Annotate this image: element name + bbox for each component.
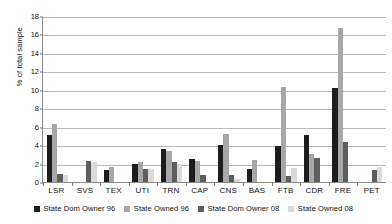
x-tick-mark bbox=[300, 182, 301, 186]
chart-legend: State Dom Owner 96State Owned 96State Do… bbox=[34, 204, 386, 213]
bar-group bbox=[43, 17, 72, 182]
y-axis-label: % of total sample bbox=[15, 12, 24, 102]
bar-group bbox=[300, 17, 329, 182]
legend-item[interactable]: State Owned 08 bbox=[288, 204, 353, 213]
x-tick-label: CNS bbox=[214, 186, 243, 195]
x-tick-mark bbox=[43, 182, 44, 186]
legend-item[interactable]: State Dom Owner 96 bbox=[34, 204, 115, 213]
x-tick-mark bbox=[357, 182, 358, 186]
x-tick-label: FRE bbox=[329, 186, 358, 195]
bar-group bbox=[100, 17, 129, 182]
legend-item[interactable]: State Owned 96 bbox=[124, 204, 189, 213]
x-tick-label: UTI bbox=[128, 186, 157, 195]
legend-swatch-icon bbox=[34, 206, 40, 212]
bar bbox=[291, 168, 296, 182]
x-tick-label: BAS bbox=[243, 186, 272, 195]
x-axis-tick-labels: LSRSVSTEXUTITRNCAPCNSBASFTBCDRFREPET bbox=[42, 186, 386, 195]
x-tick-label: FTB bbox=[271, 186, 300, 195]
x-tick-mark bbox=[214, 182, 215, 186]
bar-group bbox=[186, 17, 215, 182]
x-tick-mark bbox=[100, 182, 101, 186]
bar bbox=[91, 162, 96, 182]
bar bbox=[148, 169, 153, 182]
bar bbox=[200, 175, 205, 182]
legend-label: State Dom Owner 08 bbox=[207, 204, 279, 213]
x-tick-mark bbox=[72, 182, 73, 186]
bar-groups bbox=[43, 17, 386, 182]
legend-label: State Owned 96 bbox=[134, 204, 189, 213]
x-tick-label: PET bbox=[357, 186, 386, 195]
bar-group bbox=[357, 17, 386, 182]
x-tick-label: CAP bbox=[185, 186, 214, 195]
legend-label: State Dom Owner 96 bbox=[44, 204, 116, 213]
bar-group bbox=[329, 17, 358, 182]
y-tick-label: 12 bbox=[31, 69, 39, 77]
y-tick-label: 16 bbox=[31, 32, 39, 40]
bar-group bbox=[214, 17, 243, 182]
y-tick-label: 8 bbox=[35, 105, 39, 113]
y-tick-label: 2 bbox=[35, 161, 39, 169]
x-tick-mark bbox=[129, 182, 130, 186]
bar-group bbox=[72, 17, 101, 182]
legend-swatch-icon bbox=[124, 206, 130, 212]
bar bbox=[177, 164, 182, 182]
legend-label: State Owned 08 bbox=[298, 204, 353, 213]
x-tick-label: CDR bbox=[300, 186, 329, 195]
y-tick-label: 6 bbox=[35, 124, 39, 132]
plot-area: 024681012141618 bbox=[42, 17, 386, 183]
x-tick-label: TEX bbox=[99, 186, 128, 195]
y-tick-label: 4 bbox=[35, 142, 39, 150]
bar-group bbox=[243, 17, 272, 182]
x-tick-mark bbox=[329, 182, 330, 186]
bar-chart: % of total sample 024681012141618 LSRSVS… bbox=[0, 0, 392, 224]
bar-group bbox=[129, 17, 158, 182]
x-tick-mark bbox=[186, 182, 187, 186]
bar bbox=[314, 158, 319, 182]
bar-group bbox=[272, 17, 301, 182]
bar bbox=[109, 167, 114, 182]
x-tick-label: LSR bbox=[42, 186, 71, 195]
x-tick-label: SVS bbox=[71, 186, 100, 195]
x-tick-label: TRN bbox=[157, 186, 186, 195]
y-tick-label: 14 bbox=[31, 50, 39, 58]
bar bbox=[252, 160, 257, 182]
legend-swatch-icon bbox=[198, 206, 204, 212]
x-tick-mark bbox=[272, 182, 273, 186]
bar bbox=[343, 142, 348, 182]
y-tick-label: 0 bbox=[35, 179, 39, 187]
y-tick-label: 10 bbox=[31, 87, 39, 95]
bar-group bbox=[157, 17, 186, 182]
bar bbox=[281, 87, 286, 182]
legend-swatch-icon bbox=[288, 206, 294, 212]
bar bbox=[63, 175, 68, 182]
bar bbox=[234, 179, 239, 182]
legend-item[interactable]: State Dom Owner 08 bbox=[198, 204, 279, 213]
bar bbox=[377, 167, 382, 182]
x-tick-mark bbox=[243, 182, 244, 186]
x-tick-mark bbox=[157, 182, 158, 186]
y-tick-label: 18 bbox=[31, 13, 39, 21]
